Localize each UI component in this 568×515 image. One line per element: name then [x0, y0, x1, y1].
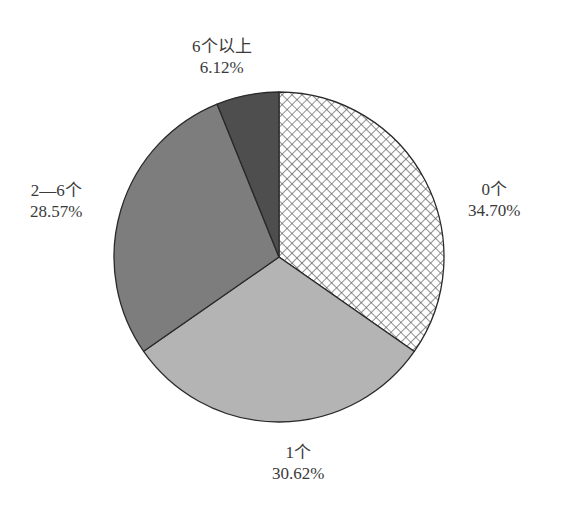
label-3-name: 6个以上 — [192, 36, 252, 57]
label-1-name: 1个 — [272, 442, 324, 463]
pie-chart — [0, 0, 568, 515]
label-3-pct: 6.12% — [192, 57, 252, 78]
label-2-name: 2—6个 — [30, 180, 82, 201]
label-2: 2—6个 28.57% — [30, 180, 82, 222]
label-0-pct: 34.70% — [468, 200, 520, 221]
label-1: 1个 30.62% — [272, 442, 324, 484]
label-1-pct: 30.62% — [272, 463, 324, 484]
pie-slices — [114, 92, 444, 422]
label-0-name: 0个 — [468, 179, 520, 200]
label-0: 0个 34.70% — [468, 179, 520, 221]
label-2-pct: 28.57% — [30, 201, 82, 222]
label-3: 6个以上 6.12% — [192, 36, 252, 78]
